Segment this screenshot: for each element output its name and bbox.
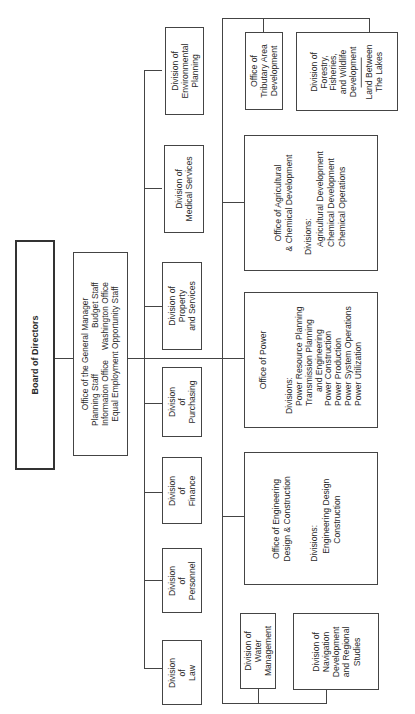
connector-navigation (326, 690, 327, 703)
connector-bottom-bracket (222, 703, 327, 704)
connector-board-gm (55, 358, 73, 359)
connector-staff-spine (144, 70, 145, 668)
line: Division (167, 561, 177, 600)
division-item: Engineering Design (321, 476, 332, 562)
connector-water (258, 689, 259, 703)
line: Division of (174, 157, 184, 222)
line: of (177, 475, 187, 506)
line: Property (177, 281, 187, 331)
line: Division of (311, 626, 321, 677)
planning-staff: Planning Staff (91, 374, 101, 426)
line: Tributary Area (259, 44, 269, 98)
connector-purchasing (144, 403, 162, 404)
line: Studies (351, 626, 361, 677)
line: Medical Services (184, 157, 194, 222)
division-forestry-box: Division of Forestry, Fisheries, and Wil… (296, 32, 398, 111)
division-law-label: Division of Law (167, 657, 197, 687)
line: Water (253, 626, 263, 676)
line: Division (167, 475, 177, 506)
connector-forestry (369, 18, 370, 32)
office-tributary-label: Office of Tributary Area Development (249, 44, 279, 98)
division-item: Chemical Operations (337, 151, 348, 255)
office-engineering-title: Office of Engineering (271, 476, 282, 562)
line: of (177, 657, 187, 687)
information-office: Information Office (101, 360, 111, 426)
office-agricultural-content: Office of Agricultural & Chemical Develo… (273, 151, 348, 255)
line: Finance (187, 475, 197, 506)
line: of (177, 381, 187, 424)
connector-property (144, 306, 162, 307)
connector-agricultural (222, 202, 244, 203)
line: Development (348, 44, 358, 99)
general-manager-box: Office of the General Manager Planning S… (73, 252, 128, 456)
division-water-box: Division of Water Management (240, 613, 276, 689)
office-engineering-box: Office of Engineering Design & Construct… (244, 452, 378, 585)
division-navigation-box: Division of Navigation Development and R… (293, 613, 379, 690)
division-environmental-box: Division of Environmental Planning (165, 27, 204, 115)
line: and Services (187, 281, 197, 331)
separator-line (361, 57, 362, 87)
office-tributary-box: Office of Tributary Area Development (245, 32, 283, 110)
division-medical-label: Division of Medical Services (174, 157, 194, 222)
division-personnel-box: Division of Personnel (162, 548, 202, 613)
connector-finance (144, 492, 162, 493)
line: Division (167, 657, 177, 687)
line: Navigation (321, 626, 331, 677)
office-power-title: Office of Power (259, 306, 269, 414)
connector-top-bracket (222, 18, 370, 19)
office-engineering-content: Office of Engineering Design & Construct… (271, 476, 351, 562)
division-environmental-label: Division of Environmental Planning (169, 44, 199, 99)
division-finance-label: Division of Finance (167, 475, 197, 506)
office-engineering-title: Design & Construction (282, 476, 293, 562)
line: Division (167, 381, 177, 424)
board-of-directors-box: Board of Directors (15, 240, 55, 470)
office-agricultural-box: Office of Agricultural & Chemical Develo… (244, 135, 378, 271)
general-manager-title: Office of the General Manager (81, 282, 91, 426)
division-item: Power Utilization (354, 306, 364, 414)
division-purchasing-label: Division of Purchasing (167, 381, 197, 424)
division-water-label: Division of Water Management (243, 626, 273, 676)
line: Planning (190, 44, 200, 99)
office-agricultural-title: Office of Agricultural (273, 151, 284, 255)
land-between-lakes: The Lakes (375, 44, 385, 99)
division-forestry-label: Division of Forestry, Fisheries, and Wil… (310, 44, 384, 99)
office-power-box: Office of Power Divisions: Power Resourc… (244, 292, 378, 428)
line: Law (187, 657, 197, 687)
line: Office of (249, 44, 259, 98)
washington-office: Washington Office (101, 282, 111, 350)
division-medical-box: Division of Medical Services (164, 145, 204, 233)
office-power-content: Office of Power Divisions: Power Resourc… (259, 306, 364, 414)
line: Division of (167, 281, 177, 331)
line: Environmental (179, 44, 189, 99)
connector-tributary (263, 18, 264, 32)
divisions-label: Divisions: (309, 476, 320, 562)
divisions-label: Divisions: (304, 151, 315, 255)
division-item: Construction (332, 476, 343, 562)
line: and Regional (341, 626, 351, 677)
connector-environmental (144, 70, 162, 71)
division-property-label: Division of Property and Services (167, 281, 197, 331)
connector-personnel (144, 580, 162, 581)
line: Personnel (187, 561, 197, 600)
connector-gm-staff (128, 358, 244, 359)
connector-office-spine (222, 18, 223, 704)
line: Division of (243, 626, 253, 676)
division-personnel-label: Division of Personnel (167, 561, 197, 600)
line: Purchasing (187, 381, 197, 424)
division-finance-box: Division of Finance (162, 457, 202, 524)
office-agricultural-title: & Chemical Development (285, 151, 296, 255)
budget-staff: Budget Staff (91, 282, 101, 328)
division-property-box: Division of Property and Services (162, 262, 202, 350)
eeo-staff: Equal Employment Opportunity Staff (110, 282, 120, 426)
division-navigation-label: Division of Navigation Development and R… (311, 626, 362, 677)
connector-engineering (222, 516, 244, 517)
line: Development (269, 44, 279, 98)
division-law-box: Division of Law (162, 640, 202, 705)
board-of-directors-label: Board of Directors (30, 315, 41, 394)
connector-law (144, 668, 162, 669)
connector-medical (144, 188, 162, 189)
division-purchasing-box: Division of Purchasing (162, 367, 202, 437)
line: of (177, 561, 187, 600)
line: Development (331, 626, 341, 677)
division-item: Chemical Development (326, 151, 337, 255)
